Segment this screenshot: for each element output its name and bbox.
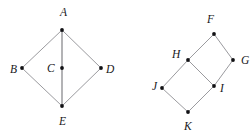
- vertex-point-A: [60, 28, 64, 32]
- vertex-point-K: [186, 110, 190, 114]
- vertex-label-B: B: [10, 63, 17, 75]
- edge-AD: [62, 30, 101, 68]
- vertex-point-F: [212, 32, 216, 36]
- labels-layer: ABCDEFGHIJK: [10, 6, 250, 132]
- vertex-label-G: G: [241, 54, 250, 66]
- vertex-point-B: [20, 66, 24, 70]
- vertex-label-H: H: [171, 48, 181, 60]
- vertex-label-D: D: [105, 63, 115, 75]
- geometry-figure-canvas: ABCDEFGHIJK: [0, 0, 252, 137]
- edge-JK: [162, 88, 188, 112]
- edge-HJ: [162, 60, 188, 88]
- vertex-label-F: F: [206, 13, 215, 25]
- vertex-point-G: [231, 58, 235, 62]
- vertex-point-C: [60, 66, 64, 70]
- vertex-label-E: E: [58, 115, 66, 127]
- edge-FG: [214, 34, 233, 60]
- edge-DE: [62, 68, 101, 106]
- vertex-label-A: A: [59, 6, 68, 18]
- edge-BE: [22, 68, 62, 106]
- vertex-point-H: [186, 58, 190, 62]
- vertex-point-I: [212, 84, 216, 88]
- edge-AB: [22, 30, 62, 68]
- vertex-point-D: [99, 66, 103, 70]
- vertex-point-E: [60, 104, 64, 108]
- vertex-label-J: J: [152, 80, 158, 92]
- edge-HI: [188, 60, 214, 86]
- vertex-label-I: I: [219, 82, 225, 94]
- vertex-label-K: K: [183, 120, 193, 132]
- vertex-label-C: C: [47, 62, 55, 74]
- vertex-point-J: [160, 86, 164, 90]
- edge-KI: [188, 86, 214, 112]
- edge-FH: [188, 34, 214, 60]
